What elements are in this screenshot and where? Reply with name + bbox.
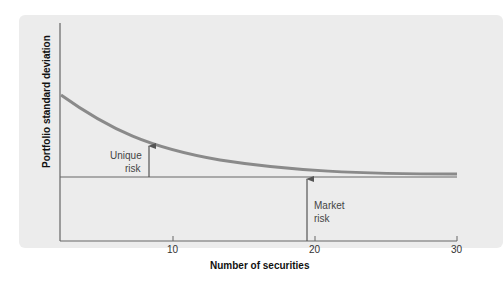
unique-risk-label: Unique risk	[110, 149, 142, 175]
unique-risk-label-line2: risk	[110, 162, 142, 175]
chart-svg	[0, 0, 504, 293]
y-axis-label: Portfolio standard deviation	[41, 35, 52, 168]
market-risk-label-line2: risk	[314, 212, 345, 225]
tick-label-30: 30	[451, 244, 462, 255]
tick-label-20: 20	[309, 244, 320, 255]
tick-label-10: 10	[167, 244, 178, 255]
unique-risk-label-line1: Unique	[110, 149, 142, 162]
x-axis-label: Number of securities	[210, 260, 309, 271]
market-risk-label-line1: Market	[314, 199, 345, 212]
market-risk-label: Market risk	[314, 199, 345, 225]
